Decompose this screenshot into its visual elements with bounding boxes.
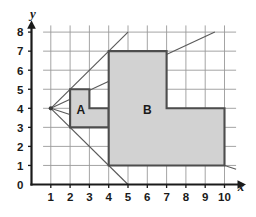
x-tick-label: 2 <box>67 191 73 203</box>
shape-label-b: B <box>143 103 152 117</box>
y-tick-label: 8 <box>17 26 24 38</box>
x-tick-label: 5 <box>125 191 132 203</box>
x-tick-label: 1 <box>48 191 55 203</box>
x-axis-label: x <box>237 179 245 194</box>
y-tick-label: 4 <box>17 103 24 115</box>
y-tick-label: 7 <box>17 45 23 57</box>
y-tick-label: 5 <box>17 84 24 96</box>
x-tick-label: 9 <box>202 191 208 203</box>
y-axis-label: y <box>28 6 36 21</box>
shape-label-a: A <box>76 103 85 117</box>
x-tick-label: 7 <box>163 191 169 203</box>
x-tick-label: 6 <box>144 191 150 203</box>
center-of-enlargement-point <box>49 106 53 110</box>
y-tick-label: 3 <box>17 122 23 134</box>
coordinate-grid-figure: 12345678910012345678 AB x y <box>0 0 256 217</box>
x-tick-label: 3 <box>86 191 92 203</box>
x-tick-label: 8 <box>183 191 190 203</box>
x-tick-label: 4 <box>105 191 112 203</box>
y-tick-label: 0 <box>17 179 23 191</box>
diagram-svg: 12345678910012345678 AB x y <box>0 0 256 217</box>
y-tick-label: 2 <box>17 141 23 153</box>
y-tick-label: 6 <box>17 65 23 77</box>
y-tick-label: 1 <box>17 160 24 172</box>
x-tick-label: 10 <box>218 191 231 203</box>
